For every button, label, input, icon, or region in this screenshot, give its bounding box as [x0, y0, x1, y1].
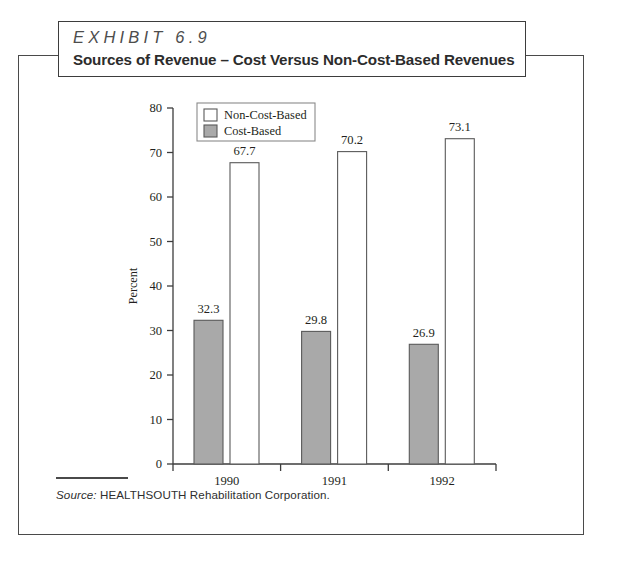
y-tick-label: 10	[149, 413, 162, 427]
y-tick-label: 0	[156, 457, 162, 471]
y-axis-title: Percent	[126, 267, 140, 304]
source-text: Source: HEALTHSOUTH Rehabilitation Corpo…	[56, 488, 536, 501]
y-tick-label: 60	[149, 190, 162, 204]
legend-label-cost-based: Cost-Based	[224, 124, 282, 138]
source-body: HEALTHSOUTH Rehabilitation Corporation.	[100, 488, 330, 501]
bar-non-cost-based-1991[interactable]	[338, 152, 367, 464]
source-note: Source: HEALTHSOUTH Rehabilitation Corpo…	[56, 477, 536, 501]
source-prefix: Source:	[56, 488, 97, 501]
exhibit-subtitle: Sources of Revenue – Cost Versus Non-Cos…	[73, 48, 525, 72]
bar-cost-based-1990[interactable]	[194, 320, 223, 464]
bar-value-label: 73.1	[449, 120, 471, 134]
exhibit-frame: 0 10 20 30 40 50 60 70 80 Percent	[18, 55, 584, 535]
legend-label-non-cost-based: Non-Cost-Based	[224, 108, 307, 122]
bar-group-1990: 32.3 67.7 1990	[194, 144, 259, 488]
exhibit-number-label: EXHIBIT 6.9	[73, 27, 525, 48]
bar-value-label: 29.8	[305, 313, 327, 327]
legend-swatch-cost-based[interactable]	[204, 125, 217, 137]
source-rule	[56, 477, 128, 479]
legend-swatch-non-cost-based[interactable]	[204, 109, 217, 121]
bar-value-label: 32.3	[197, 302, 219, 316]
bar-group-1992: 26.9 73.1 1992	[409, 120, 474, 488]
y-tick-label: 50	[149, 235, 162, 249]
y-tick-label: 80	[149, 101, 162, 115]
chart-figure: 0 10 20 30 40 50 60 70 80 Percent	[19, 56, 585, 536]
bar-value-label: 70.2	[341, 133, 363, 147]
bar-value-label: 67.7	[233, 144, 255, 158]
bar-cost-based-1991[interactable]	[302, 331, 331, 464]
y-tick-label: 20	[149, 368, 162, 382]
chart-legend: Non-Cost-Based Cost-Based	[197, 103, 315, 141]
exhibit-title-box: EXHIBIT 6.9 Sources of Revenue – Cost Ve…	[58, 21, 526, 77]
bar-non-cost-based-1990[interactable]	[230, 163, 259, 464]
bar-cost-based-1992[interactable]	[409, 344, 438, 464]
y-tick-label: 40	[149, 279, 162, 293]
x-axis-group-ticks	[173, 464, 496, 471]
y-axis-ticks: 0 10 20 30 40 50 60 70 80	[149, 101, 173, 471]
y-tick-label: 70	[149, 146, 162, 160]
bar-value-label: 26.9	[413, 326, 435, 340]
y-tick-label: 30	[149, 324, 162, 338]
bar-group-1991: 29.8 70.2 1991	[302, 133, 367, 488]
bar-chart: 0 10 20 30 40 50 60 70 80 Percent	[19, 56, 585, 536]
bar-non-cost-based-1992[interactable]	[445, 139, 474, 464]
